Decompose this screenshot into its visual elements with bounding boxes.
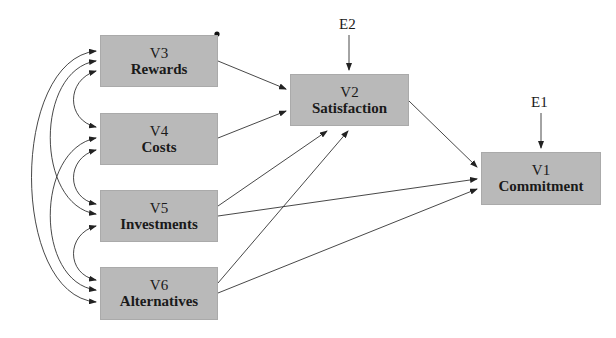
node-code: V4 xyxy=(100,123,218,139)
error-label-e1: E1 xyxy=(531,94,548,111)
node-v5-investments: V5 Investments xyxy=(100,190,218,242)
covariance-v5-v6 xyxy=(74,226,97,280)
path-v6-v1 xyxy=(218,189,477,293)
node-v6-alternatives: V6 Alternatives xyxy=(100,267,218,320)
path-v3-v2 xyxy=(218,61,286,89)
node-name: Satisfaction xyxy=(290,100,409,117)
covariance-v4-v6 xyxy=(50,138,96,290)
path-v2-v1 xyxy=(409,101,477,167)
covariance-v3-v4 xyxy=(74,71,97,127)
node-code: V1 xyxy=(481,162,601,178)
node-v4-costs: V4 Costs xyxy=(100,113,218,165)
path-v5-v2 xyxy=(218,131,327,206)
error-label-e2: E2 xyxy=(339,16,356,33)
covariance-v3-v6 xyxy=(32,51,97,302)
node-name: Commitment xyxy=(481,178,601,195)
node-name: Investments xyxy=(100,216,218,233)
path-v4-v2 xyxy=(218,111,286,138)
path-v5-v1 xyxy=(218,179,477,216)
node-code: V5 xyxy=(100,200,218,216)
node-name: Costs xyxy=(100,139,218,156)
covariance-v4-v5 xyxy=(74,150,97,204)
covariance-v3-v5 xyxy=(50,61,96,214)
node-code: V6 xyxy=(100,277,218,293)
node-v2-satisfaction: V2 Satisfaction xyxy=(290,74,409,126)
node-v1-commitment: V1 Commitment xyxy=(481,152,601,205)
node-name: Rewards xyxy=(100,61,218,78)
path-diagram: V3 Rewards V4 Costs V5 Investments V6 Al… xyxy=(0,0,616,338)
node-v3-rewards: V3 Rewards xyxy=(100,35,218,87)
node-name: Alternatives xyxy=(100,293,218,310)
node-code: V3 xyxy=(100,45,218,61)
node-code: V2 xyxy=(290,84,409,100)
